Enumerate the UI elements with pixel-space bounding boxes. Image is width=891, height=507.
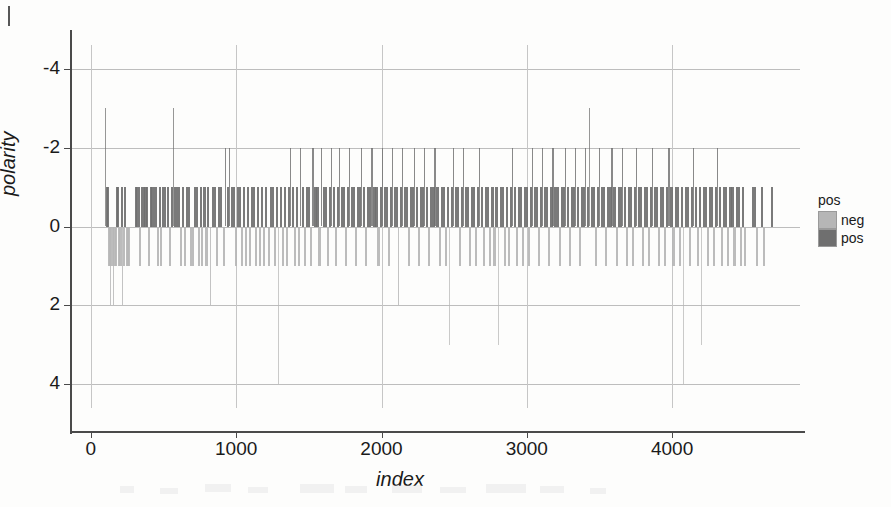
bar — [327, 227, 329, 267]
bar — [725, 187, 727, 227]
bar — [542, 148, 543, 227]
legend-swatch-neg — [818, 211, 837, 229]
bar — [418, 227, 420, 267]
bar — [300, 148, 301, 227]
bar — [121, 187, 123, 227]
bar — [681, 187, 683, 227]
bar — [294, 227, 296, 267]
y-axis-tick-label: 0 — [20, 215, 60, 237]
bar — [483, 227, 485, 267]
bar — [363, 187, 365, 227]
bar — [475, 227, 477, 267]
bar — [699, 187, 701, 227]
bar — [169, 227, 171, 267]
bar — [506, 187, 508, 227]
bar — [255, 227, 257, 267]
bar — [115, 227, 117, 267]
bar — [528, 227, 530, 267]
bar — [272, 187, 274, 227]
gridline-horizontal — [72, 384, 800, 385]
bar — [687, 187, 689, 227]
bar — [245, 227, 247, 267]
bar — [771, 187, 773, 227]
bar — [538, 227, 540, 267]
bar — [630, 187, 632, 227]
bar — [705, 187, 707, 227]
bar — [763, 227, 765, 267]
bar — [375, 187, 377, 227]
bar — [259, 227, 261, 267]
bar — [740, 227, 742, 267]
bar — [532, 148, 533, 227]
bar — [502, 187, 504, 227]
bar — [449, 227, 450, 345]
bar — [223, 227, 225, 267]
bar — [257, 187, 259, 227]
bar — [312, 148, 313, 227]
bar — [167, 187, 169, 227]
bar — [188, 187, 190, 227]
bar — [310, 227, 312, 267]
bar — [274, 227, 276, 267]
bar — [298, 227, 300, 267]
x-axis-tick-label: 3000 — [467, 438, 587, 460]
legend-label: neg — [841, 213, 864, 227]
y-axis-tick-label: -4 — [20, 57, 60, 79]
bar — [697, 227, 699, 267]
gridline-horizontal — [72, 305, 800, 306]
bar — [742, 187, 744, 227]
bar — [536, 187, 538, 227]
bar — [648, 227, 650, 267]
bar — [184, 227, 186, 267]
bar — [408, 227, 410, 267]
bar — [214, 187, 216, 227]
bar — [292, 187, 294, 227]
bar — [662, 187, 664, 227]
bar — [205, 227, 207, 267]
bar — [559, 227, 561, 267]
bar — [107, 187, 109, 227]
bar — [445, 227, 447, 267]
bar — [178, 187, 180, 227]
x-axis-title: index — [0, 468, 800, 491]
bar — [249, 227, 251, 267]
x-axis-tick-label: 1000 — [176, 438, 296, 460]
bar — [721, 227, 723, 267]
bar — [386, 187, 388, 227]
y-axis-tick-mark — [64, 148, 71, 149]
legend-swatch-pos — [818, 229, 837, 247]
bar — [624, 187, 626, 227]
gridline-horizontal — [72, 148, 800, 149]
y-axis-tick-mark — [64, 69, 71, 70]
bar — [239, 187, 241, 227]
bar — [514, 187, 516, 227]
bar — [284, 187, 286, 227]
bar — [495, 187, 497, 227]
bar — [198, 227, 200, 267]
bar — [268, 227, 270, 267]
bar — [504, 227, 506, 267]
bar — [318, 227, 320, 267]
bar — [677, 187, 679, 227]
bar — [220, 187, 222, 227]
bar — [424, 148, 425, 227]
legend: pos negpos — [818, 193, 891, 247]
bar — [656, 187, 658, 227]
x-axis-tick-label: 4000 — [612, 438, 732, 460]
bar — [616, 227, 618, 267]
bar — [180, 227, 182, 267]
bar — [439, 227, 441, 267]
bar — [603, 187, 605, 227]
bar — [457, 187, 459, 227]
bar — [683, 227, 684, 385]
bar — [265, 187, 267, 227]
bar — [613, 187, 615, 227]
bar — [148, 227, 150, 267]
gridline-vertical — [91, 45, 92, 408]
bar — [157, 227, 159, 267]
bar — [235, 227, 237, 267]
bar — [261, 187, 263, 227]
bar — [668, 148, 669, 227]
bar — [467, 187, 469, 227]
bar — [371, 148, 372, 227]
